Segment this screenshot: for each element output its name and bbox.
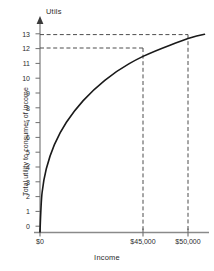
reference-line-50000 xyxy=(40,35,188,232)
y-axis-ticks xyxy=(36,34,41,226)
total-utility-chart: Utils Total utility to consumer of incom… xyxy=(0,0,214,271)
total-utility-curve xyxy=(40,34,205,232)
reference-line-45000 xyxy=(40,48,143,232)
y-axis-arrow-icon xyxy=(37,16,44,24)
chart-plot-area xyxy=(0,0,214,271)
